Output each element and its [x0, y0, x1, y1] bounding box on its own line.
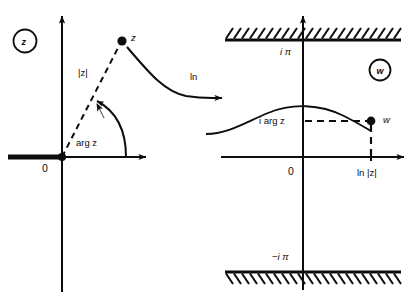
w-point-marker	[367, 117, 376, 126]
ln-map-label: ln	[190, 72, 197, 82]
ln-map-arrow[interactable]	[127, 47, 222, 98]
z-argument-arc	[97, 101, 126, 157]
z-plane-badge-label: z	[22, 37, 27, 47]
w-upper-hatching	[226, 28, 401, 39]
w-point-label: w	[383, 115, 390, 125]
w-lower-hatching	[226, 274, 401, 285]
w-imaginary-part-label: i arg z	[259, 116, 285, 126]
w-plane-axes	[221, 16, 404, 290]
z-argument-label: arg z	[76, 138, 97, 148]
z-point-marker	[117, 36, 126, 45]
w-upper-boundary-label: i π	[280, 47, 291, 57]
z-modulus-arrowhead	[97, 104, 104, 118]
w-plane-badge-label: w	[377, 66, 384, 76]
z-origin-label: 0	[42, 163, 48, 174]
z-point-label: z	[131, 33, 136, 43]
w-lower-boundary-label: −i π	[272, 252, 289, 262]
w-point-group	[305, 117, 375, 161]
figure-canvas: z 0 z |z| arg z ln w i π −i π i arg z 0 …	[0, 0, 411, 300]
w-origin-label: 0	[288, 166, 294, 177]
diagram-graphics	[0, 0, 411, 300]
w-real-part-label: ln |z|	[357, 168, 377, 178]
z-modulus-label: |z|	[78, 68, 88, 78]
